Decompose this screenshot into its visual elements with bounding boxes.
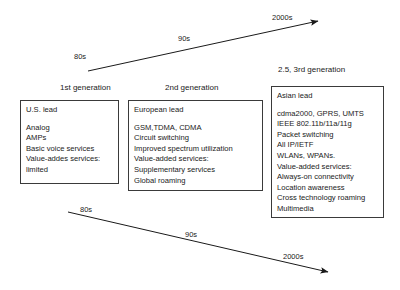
- bottom-timeline-line: [68, 212, 328, 272]
- caption-1st-generation: 1st generation: [60, 84, 111, 92]
- box-line: Value-added services:: [277, 162, 379, 173]
- top-timeline-label-80s: 80s: [74, 53, 86, 61]
- box-line: All IP/IETF: [277, 140, 379, 151]
- box-line: AMPs: [26, 133, 114, 144]
- bottom-timeline-label-90s: 90s: [185, 231, 197, 239]
- caption-2nd-generation: 2nd generation: [165, 84, 218, 92]
- box-line: Analog: [26, 123, 114, 134]
- box-line: Improved spectrum utilization: [134, 144, 258, 155]
- box-line: Location awareness: [277, 183, 379, 194]
- box-line: limited: [26, 165, 114, 176]
- caption-2_5-3rd-generation: 2.5, 3rd generation: [278, 66, 345, 74]
- spacer: [26, 116, 114, 123]
- box-line: GSM,TDMA, CDMA: [134, 123, 258, 134]
- box-title-asian-lead: Asian lead: [277, 91, 379, 102]
- box-line: Cross technology roaming: [277, 193, 379, 204]
- box-line: Always-on connectivity: [277, 172, 379, 183]
- box-line: WLANs, WPANs.: [277, 151, 379, 162]
- box-third-generation: Asian lead cdma2000, GPRS, UMTS IEEE 802…: [271, 86, 384, 218]
- box-second-generation: European lead GSM,TDMA, CDMA Circuit swi…: [128, 100, 263, 191]
- top-timeline-line: [88, 21, 318, 71]
- spacer: [134, 116, 258, 123]
- box-line: Circuit switching: [134, 133, 258, 144]
- box-line: Packet switching: [277, 130, 379, 141]
- box-line: Value-added services:: [134, 154, 258, 165]
- box-line: cdma2000, GPRS, UMTS: [277, 109, 379, 120]
- box-title-us-lead: U.S. lead: [26, 105, 114, 116]
- diagram-canvas: 80s 90s 2000s 1st generation 2nd generat…: [0, 0, 400, 290]
- bottom-timeline-label-80s: 80s: [80, 206, 92, 214]
- box-line: Basic voice services: [26, 144, 114, 155]
- box-line: Global roaming: [134, 176, 258, 187]
- box-line: Supplementary services: [134, 165, 258, 176]
- box-first-generation: U.S. lead Analog AMPs Basic voice servic…: [20, 100, 119, 184]
- box-line: IEEE 802.11b/11a/11g: [277, 119, 379, 130]
- top-timeline-label-2000s: 2000s: [272, 14, 292, 22]
- box-line: Multimedia: [277, 204, 379, 215]
- spacer: [277, 102, 379, 109]
- top-timeline-label-90s: 90s: [178, 35, 190, 43]
- box-line: Value-addes services:: [26, 154, 114, 165]
- bottom-timeline-label-2000s: 2000s: [283, 253, 303, 261]
- box-title-european-lead: European lead: [134, 105, 258, 116]
